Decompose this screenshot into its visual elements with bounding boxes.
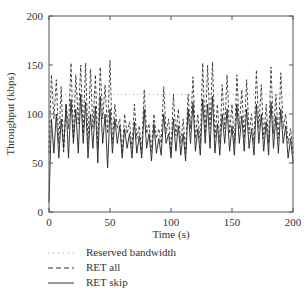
x-tick-label: 150 <box>224 216 241 228</box>
dotted-line-swatch-icon <box>48 247 74 257</box>
x-axis-title: Time (s) <box>152 228 190 240</box>
legend: Reserved bandwidth RET all RET skip <box>48 244 176 289</box>
x-tick-label: 0 <box>46 216 52 228</box>
x-tick-label: 50 <box>105 216 117 228</box>
dashed-line-swatch-icon <box>48 262 74 272</box>
plot-frame <box>49 16 293 212</box>
y-tick-label: 200 <box>27 10 44 22</box>
legend-item-ret-skip: RET skip <box>48 274 176 289</box>
legend-item-reserved: Reserved bandwidth <box>48 244 176 259</box>
throughput-chart: 050100150200050100150200 Time (s) Throug… <box>0 0 308 240</box>
legend-label: Reserved bandwidth <box>86 246 176 258</box>
legend-label: RET all <box>86 261 120 273</box>
y-tick-label: 150 <box>27 59 44 71</box>
y-tick-label: 100 <box>27 108 44 120</box>
y-tick-label: 50 <box>32 157 44 169</box>
legend-item-ret-all: RET all <box>48 259 176 274</box>
plot-lines <box>49 60 293 202</box>
legend-label: RET skip <box>86 276 128 288</box>
y-axis-title: Throughput (kbps) <box>4 72 17 155</box>
x-tick-label: 100 <box>163 216 180 228</box>
y-tick-label: 0 <box>38 206 44 218</box>
x-tick-label: 200 <box>285 216 302 228</box>
solid-line-swatch-icon <box>48 277 74 287</box>
